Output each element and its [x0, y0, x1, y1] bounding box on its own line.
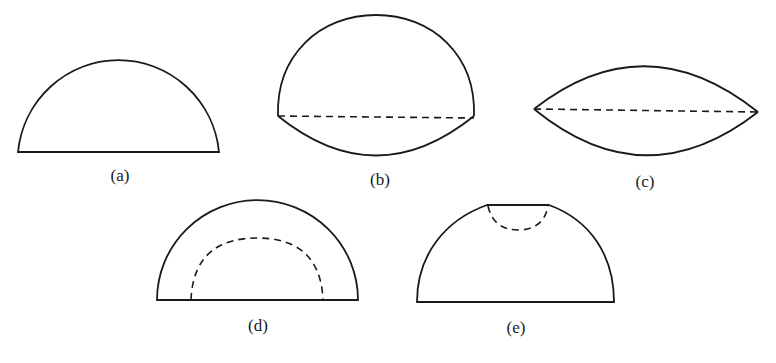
panel-a-label: (a): [111, 166, 130, 186]
panel-e-label: (e): [507, 318, 526, 338]
panel-c-label: (c): [636, 172, 655, 192]
panel-b-label: (b): [370, 170, 390, 190]
panel-e-shape: [417, 205, 614, 302]
panel-a-shape: [18, 60, 219, 152]
panel-b-shape: [278, 15, 474, 156]
panel-d-label: (d): [248, 316, 268, 336]
panel-c-shape: [534, 66, 758, 155]
panel-d-shape: [157, 200, 358, 300]
